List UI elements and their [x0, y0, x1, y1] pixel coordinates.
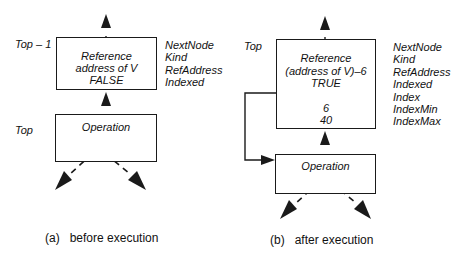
field-list-b: NextNode Kind RefAddress Indexed Index I…: [393, 41, 450, 128]
caption-a-text: before execution: [70, 231, 159, 245]
field-refaddress: RefAddress: [393, 66, 450, 78]
reference-b-line-3: TRUE: [277, 77, 375, 90]
field-list-a: NextNode Kind RefAddress Indexed: [165, 39, 222, 89]
reference-line-3: FALSE: [57, 74, 156, 87]
caption-a: (a) before execution: [45, 231, 158, 245]
reference-b-line-1: Reference: [277, 52, 375, 65]
field-refaddress: RefAddress: [165, 64, 222, 76]
caption-a-label: (a): [45, 231, 60, 245]
stack-label-top: Top: [15, 124, 33, 137]
field-indexed: Indexed: [165, 76, 222, 88]
field-nextnode: NextNode: [165, 39, 222, 51]
reference-node-box: Reference address of V FALSE: [56, 37, 157, 90]
field-indexed: Indexed: [393, 78, 450, 90]
index-min-value: 6: [277, 102, 375, 115]
field-indexmin: IndexMin: [393, 103, 450, 115]
field-index: Index: [393, 91, 450, 103]
operation-node-box-b: Operation: [275, 154, 376, 194]
reference-b-line-2: (address of V)–6: [277, 65, 375, 78]
reference-node-box-b: Reference (address of V)–6 TRUE 6 40: [276, 39, 376, 129]
up-arrow-icon: [101, 14, 111, 28]
stack-label-top-b: Top: [244, 40, 262, 53]
reference-line-2: address of V: [57, 62, 156, 75]
reference-line-1: Reference: [57, 50, 156, 63]
field-indexmax: IndexMax: [393, 115, 450, 127]
index-max-value: 40: [277, 114, 375, 127]
caption-b: (b) after execution: [270, 233, 373, 247]
field-kind: Kind: [165, 51, 222, 63]
operation-label-b: Operation: [276, 160, 375, 173]
caption-b-label: (b): [270, 233, 285, 247]
stack-label-top-minus-1: Top – 1: [15, 38, 51, 51]
operation-node-box: Operation: [55, 114, 157, 162]
caption-b-text: after execution: [295, 233, 374, 247]
operation-label: Operation: [56, 121, 156, 134]
field-nextnode: NextNode: [393, 41, 450, 53]
field-kind: Kind: [393, 53, 450, 65]
